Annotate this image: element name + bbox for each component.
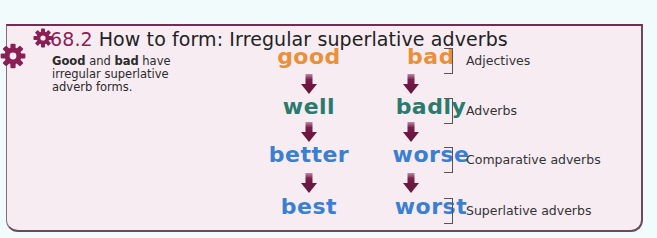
label-adverbs: Adverbs [466,103,517,118]
word-good: good [254,44,364,69]
intro-word-bad: bad [114,54,138,68]
intro-text: Good and bad have irregular superlative … [52,55,202,94]
word-best: best [254,194,364,219]
word-better: better [254,142,364,167]
intro-word-good: Good [52,54,85,68]
arrow-down-icon [301,173,317,193]
arrow-down-icon [403,173,419,193]
label-superlative-adverbs: Superlative adverbs [466,203,591,218]
arrow-down-icon [403,122,419,142]
arrow-down-icon [301,122,317,142]
label-comparative-adverbs: Comparative adverbs [466,152,601,167]
bracket-divider [444,48,453,74]
section-number: 68.2 [50,28,93,50]
gear-icon [0,43,26,69]
label-adjectives: Adjectives [466,53,530,68]
intro-text-part: and [85,54,114,68]
bracket-divider [444,147,453,173]
bracket-divider [444,98,453,124]
arrow-down-icon [403,74,419,94]
bracket-divider [444,198,453,224]
arrow-down-icon [301,74,317,94]
word-well: well [254,94,364,119]
